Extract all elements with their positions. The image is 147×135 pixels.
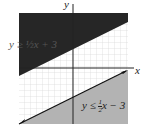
lower-inequality-label: y ≤ 12x − 3 [82, 99, 125, 114]
upper-inequality-label: y ≥ ½x + 3 [9, 38, 57, 50]
y-axis-label: y [64, 0, 69, 10]
x-axis-label: x [135, 64, 140, 76]
inequality-graph [0, 0, 147, 135]
